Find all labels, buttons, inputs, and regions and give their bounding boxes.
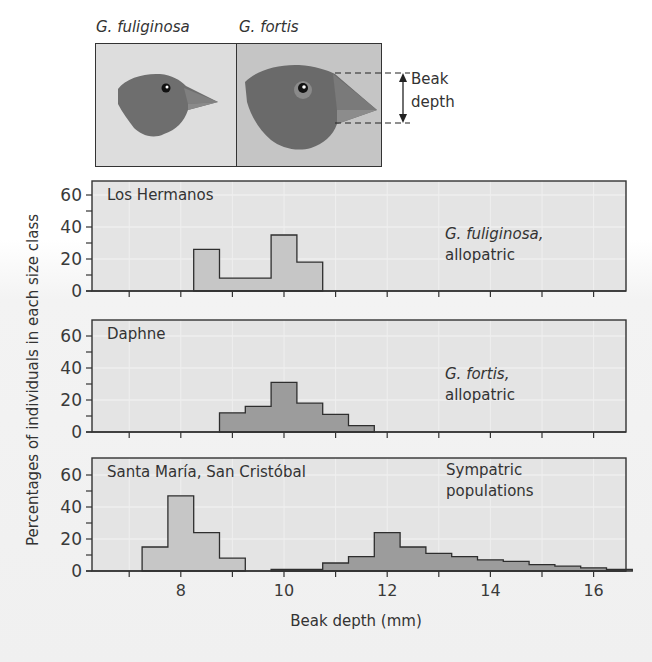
x-tick-label: 8 (176, 581, 186, 600)
y-tick-label: 0 (71, 561, 82, 581)
y-tick-label: 60 (60, 185, 82, 205)
x-tick-label: 16 (583, 581, 603, 600)
finch-beak-figure: G. fuliginosa G. fortis Beak depth (0, 0, 652, 662)
y-tick-label: 40 (60, 358, 82, 378)
x-tick-label: 10 (274, 581, 294, 600)
y-tick-label: 60 (60, 326, 82, 346)
histogram-panels: 020406002040600204060810121416 (0, 0, 652, 662)
panel-note-sympatric: Sympatric populations (446, 460, 534, 502)
note-species: G. fortis, (445, 364, 515, 385)
y-tick-label: 20 (60, 249, 82, 269)
panel-title-daphne: Daphne (107, 325, 166, 343)
panel-title-los-hermanos: Los Hermanos (107, 186, 214, 204)
x-axis-label: Beak depth (mm) (290, 612, 422, 630)
panel-note-daphne: G. fortis, allopatric (445, 364, 515, 406)
y-tick-label: 0 (71, 422, 82, 442)
note-species: G. fuliginosa, (445, 224, 543, 245)
note-status: populations (446, 481, 534, 502)
y-tick-label: 0 (71, 281, 82, 301)
y-tick-label: 20 (60, 529, 82, 549)
panel-note-los-hermanos: G. fuliginosa, allopatric (445, 224, 543, 266)
y-tick-label: 20 (60, 390, 82, 410)
y-tick-label: 60 (60, 465, 82, 485)
x-tick-label: 14 (480, 581, 500, 600)
note-species: Sympatric (446, 460, 534, 481)
y-tick-label: 40 (60, 217, 82, 237)
note-status: allopatric (445, 245, 543, 266)
note-status: allopatric (445, 385, 515, 406)
panel-title-santa-maria: Santa María, San Cristóbal (107, 463, 306, 481)
y-tick-label: 40 (60, 497, 82, 517)
y-axis-label: Percentages of individuals in each size … (24, 214, 42, 546)
x-tick-label: 12 (377, 581, 397, 600)
